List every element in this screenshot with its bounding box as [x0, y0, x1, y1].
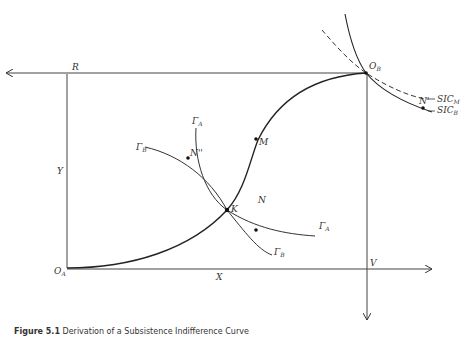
caption-text: Derivation of a Subsistence Indifference… [63, 327, 249, 336]
label-gamma-b-bottom: ΓB [273, 247, 285, 258]
point-m-marker [254, 137, 258, 141]
point-n-prime-marker [421, 106, 425, 110]
label-point-k: K [230, 204, 239, 214]
label-sic-m: SICM [437, 94, 461, 105]
gamma-a-curve [196, 128, 315, 236]
label-point-n-double-prime: N'' [189, 148, 203, 158]
label-point-n: N [257, 195, 267, 205]
label-origin-a: OA [54, 266, 66, 277]
label-corner-r: R [71, 62, 79, 72]
label-origin-b: OB [369, 61, 381, 72]
gamma-b-curve [145, 147, 272, 255]
label-sic-b: SICB [437, 105, 459, 116]
origin-b-marker [364, 71, 368, 75]
contract-curve [67, 73, 366, 268]
label-gamma-a-top: ΓA [191, 116, 203, 127]
label-gamma-b-left: ΓB [135, 142, 147, 153]
label-corner-v: V [370, 258, 378, 268]
label-axis-x: X [215, 272, 223, 282]
label-point-m: M [258, 137, 269, 147]
figure-caption: Figure 5.1 Derivation of a Subsistence I… [14, 327, 454, 336]
label-gamma-a-right: ΓA [318, 221, 330, 232]
label-point-n-prime: N' [418, 96, 429, 106]
edgeworth-box-diagram: OA OB R V X Y K M N N'' N' ΓB ΓA ΓA ΓB S… [0, 0, 468, 338]
label-axis-y: Y [57, 166, 64, 176]
point-k-marker [225, 208, 229, 212]
point-n-marker [254, 228, 258, 232]
caption-label: Figure 5.1 [14, 327, 60, 336]
